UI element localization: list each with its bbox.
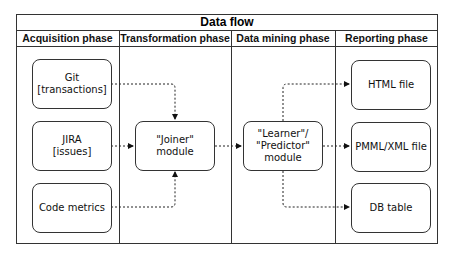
node-joiner-module: "Joiner" module xyxy=(135,121,215,171)
node-db-table: DB table xyxy=(351,183,431,233)
node-code-metrics: Code metrics xyxy=(32,183,112,233)
lane-divider xyxy=(335,31,336,244)
diagram-title: Data flow xyxy=(16,14,438,31)
node-git: Git [transactions] xyxy=(32,59,112,109)
phase-header-transformation: Transformation phase xyxy=(119,31,231,47)
node-html-file: HTML file xyxy=(351,60,431,110)
lane-divider xyxy=(119,31,120,244)
phase-header-data-mining: Data mining phase xyxy=(231,31,335,47)
lane-divider xyxy=(231,31,232,244)
node-pmml-xml-file: PMML/XML file xyxy=(351,122,431,172)
node-jira: JIRA [issues] xyxy=(32,121,112,171)
node-learner-predictor-module: "Learner"/ "Predictor" module xyxy=(243,121,323,171)
phase-header-acquisition: Acquisition phase xyxy=(16,31,119,47)
phase-header-reporting: Reporting phase xyxy=(335,31,438,47)
